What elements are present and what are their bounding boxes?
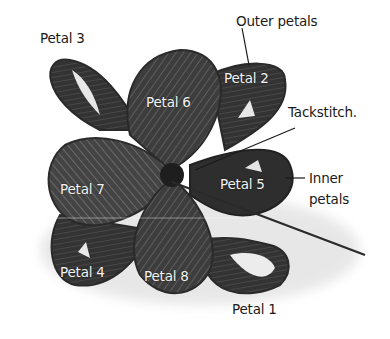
outer-petals-leader-line	[242, 28, 249, 65]
label-petal-4: Petal 4	[60, 266, 105, 280]
petal-3-shape	[50, 60, 140, 130]
label-outer-petals: Outer petals	[236, 15, 317, 29]
label-inner-petals-line2: petals	[309, 193, 349, 207]
label-inner-petals-line1: Inner	[309, 172, 343, 186]
label-petal-7: Petal 7	[60, 183, 105, 197]
label-petal-5: Petal 5	[220, 178, 265, 192]
label-petal-8: Petal 8	[144, 270, 189, 284]
label-petal-3: Petal 3	[40, 32, 85, 46]
label-petal-1: Petal 1	[232, 303, 277, 317]
label-petal-6: Petal 6	[146, 96, 191, 110]
label-tackstitch: Tackstitch.	[288, 106, 357, 120]
flower-center	[160, 163, 184, 187]
label-petal-2: Petal 2	[224, 72, 269, 86]
ribbon-flower-diagram: Petal 3 Outer petals Petal 2 Petal 6 Tac…	[0, 0, 390, 339]
